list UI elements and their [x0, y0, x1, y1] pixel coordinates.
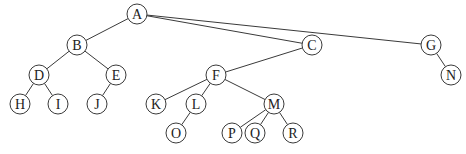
tree-node-r: R	[283, 123, 303, 143]
edge-c-f	[226, 48, 303, 72]
tree-node-e: E	[106, 65, 126, 85]
edge-b-d	[47, 51, 69, 69]
node-label: R	[288, 126, 298, 141]
tree-node-i: I	[48, 94, 68, 114]
tree-node-g: G	[421, 35, 441, 55]
node-label: B	[72, 38, 81, 53]
edge-l-o	[182, 112, 191, 125]
node-label: D	[34, 68, 44, 83]
edge-m-q	[260, 112, 268, 124]
tree-node-k: K	[146, 94, 166, 114]
node-label: N	[446, 68, 456, 83]
node-label: E	[112, 68, 121, 83]
tree-node-p: P	[222, 123, 242, 143]
edge-g-n	[437, 53, 446, 66]
tree-node-h: H	[10, 94, 30, 114]
edge-f-m	[225, 79, 265, 99]
tree-node-a: A	[127, 4, 147, 24]
node-label: P	[228, 126, 236, 141]
node-label: G	[426, 38, 436, 53]
tree-node-c: C	[302, 35, 322, 55]
node-label: L	[192, 97, 201, 112]
edge-d-i	[44, 83, 52, 95]
tree-node-o: O	[166, 123, 186, 143]
node-label: K	[151, 97, 161, 112]
tree-node-f: F	[206, 65, 226, 85]
edge-a-c	[147, 16, 302, 44]
edge-m-r	[279, 112, 287, 124]
node-label: C	[307, 38, 316, 53]
edge-f-l	[202, 83, 211, 96]
node-label: A	[132, 7, 143, 22]
tree-edges	[25, 15, 445, 127]
node-label: F	[212, 68, 220, 83]
tree-diagram: ABCGDEFNHIJKLMOPQR	[0, 0, 466, 154]
node-label: H	[15, 97, 25, 112]
node-label: I	[56, 97, 61, 112]
tree-node-q: Q	[245, 123, 265, 143]
tree-node-m: M	[264, 94, 284, 114]
edge-e-j	[102, 83, 110, 95]
tree-node-d: D	[29, 65, 49, 85]
tree-node-b: B	[67, 35, 87, 55]
edge-a-b	[86, 19, 128, 41]
tree-node-n: N	[441, 65, 461, 85]
edge-d-h	[25, 83, 33, 95]
edge-b-e	[85, 51, 108, 69]
node-label: Q	[250, 126, 260, 141]
node-label: M	[268, 97, 281, 112]
tree-node-j: J	[87, 94, 107, 114]
tree-node-l: L	[186, 94, 206, 114]
node-label: J	[94, 97, 100, 112]
node-label: O	[171, 126, 181, 141]
